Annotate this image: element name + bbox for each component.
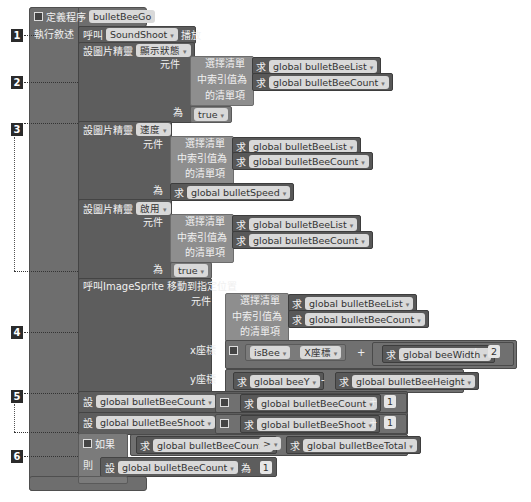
property-dropdown[interactable]: 速度▾ [136,123,171,136]
var-dropdown[interactable]: global bulletBeeTotal▾ [303,439,417,452]
marker-1: 1 [11,29,23,42]
chevron-down-icon: ▾ [468,379,472,387]
var-dropdown[interactable]: global beeY▾ [250,375,320,388]
var-dropdown[interactable]: global bulletSpeed▾ [187,186,290,199]
mutator-icon[interactable] [220,419,229,428]
get-count-var[interactable]: 求 global bulletBeeCount▾ [136,436,277,454]
chevron-down-icon: ▾ [361,238,365,246]
chevron-down-icon: ▾ [361,159,365,167]
get-label: 求 [174,185,184,200]
var-dropdown[interactable]: global bulletBeeCount▾ [118,461,238,474]
get-label: 求 [386,347,396,362]
property-dropdown[interactable]: 啟用▾ [136,202,171,215]
item-label: 的清單項 [185,246,225,260]
property-dropdown[interactable]: 顯示狀態▾ [136,44,191,57]
x-label: x座標 [190,344,216,358]
get-speed-var[interactable]: 求 global bulletSpeed▾ [170,183,294,201]
get-total-var[interactable]: 求 global bulletBeeTotal▾ [286,436,421,454]
var-dropdown[interactable]: global bulletBeeCount▾ [269,76,389,89]
chevron-down-icon: ▾ [406,301,410,309]
select-list-label: 選擇清單 [205,57,245,71]
number-field[interactable]: 1 [384,416,396,429]
method-label: 播放 [181,27,201,42]
get-index-var[interactable]: 求 global bulletBeeCount▾ [252,73,393,91]
mutator-icon[interactable] [229,346,238,355]
set-label: 設圖片精靈 [83,201,133,216]
sprite-getter-block[interactable]: isBee▾ X座標▾ [245,344,346,361]
var-dropdown[interactable]: global bulletBeeCount▾ [249,155,369,168]
get-index-var[interactable]: 求 global bulletBeeCount▾ [288,310,429,328]
var-dropdown[interactable]: global bulletBeeCount▾ [249,234,369,247]
chevron-down-icon: ▾ [170,32,174,40]
number-field[interactable]: 2 [488,345,500,358]
var-dropdown[interactable]: global bulletBeeList▾ [269,60,377,73]
get-label: 求 [256,59,266,74]
boolean-value[interactable]: true [198,109,218,120]
set-count-reset[interactable]: 設 global bulletBeeCount▾ 為 1 [100,457,277,477]
marker-4: 4 [11,326,23,339]
chevron-down-icon: ▾ [350,144,354,152]
chevron-down-icon: ▾ [283,190,287,198]
component-label: 元件 [160,58,180,72]
get-shoot-var[interactable]: 求 global bulletBeeShoot▾ [240,415,380,433]
chevron-down-icon: ▾ [483,352,487,360]
number-field[interactable]: 1 [384,395,396,408]
chevron-down-icon: ▾ [417,317,421,325]
index-label: 中索引值為 [177,152,227,166]
component-dropdown[interactable]: isBee▾ [250,346,290,359]
moveto-call-label: 呼叫ImageSprite 移動到指定位置 [83,280,237,294]
true-block[interactable]: true▾ [170,262,212,279]
get-label: 求 [140,438,150,453]
marker-3-bracket [14,137,15,271]
mutator-icon[interactable] [83,439,92,448]
var-dropdown[interactable]: global bulletBeeList▾ [249,140,357,153]
var-dropdown[interactable]: global bulletBeeHeight▾ [352,375,475,388]
var-dropdown[interactable]: global bulletBeeShoot▾ [257,418,376,431]
item-label: 的清單項 [205,89,245,103]
var-dropdown[interactable]: global bulletBeeCount▾ [96,395,216,408]
get-index-var[interactable]: 求 global bulletBeeCount▾ [232,152,373,170]
true-block[interactable]: true▾ [190,106,232,123]
var-dropdown[interactable]: global beeWidth▾ [399,348,491,361]
get-index-var[interactable]: 求 global bulletBeeCount▾ [232,231,373,249]
chevron-down-icon: ▾ [163,206,167,214]
select-list-label: 選擇清單 [185,215,225,229]
get-label: 求 [339,374,349,389]
procedure-title-row: 定義程序 bulletBeeGo [34,9,155,24]
mutator-icon[interactable] [220,398,229,407]
var-dropdown[interactable]: global bulletBeeShoot▾ [96,416,215,429]
collapse-icon[interactable] [34,12,43,21]
marker-5-bracket [14,404,15,432]
component-label: 元件 [143,138,163,152]
get-label: 求 [290,438,300,453]
plus-operator: + [369,416,377,430]
get-label: 求 [236,217,246,232]
var-dropdown[interactable]: global bulletBeeList▾ [249,218,357,231]
number-field[interactable]: 1 [260,461,272,474]
boolean-value[interactable]: true [178,265,198,276]
component-dropdown[interactable]: SoundShoot▾ [106,28,178,41]
operator-dropdown[interactable]: >▾ [259,437,281,450]
var-dropdown[interactable]: global bulletBeeCount▾ [305,313,425,326]
plus-operator: + [357,346,365,360]
call-label: 呼叫 [83,27,103,42]
divide-operator: / [473,346,476,360]
property-dropdown[interactable]: X座標▾ [300,346,341,359]
if-label: 如果 [95,436,115,451]
get-count-var[interactable]: 求 global bulletBeeCount▾ [240,394,381,412]
procedure-name-field[interactable]: bulletBeeGo [89,10,155,23]
get-beey-var[interactable]: 求 global beeY▾ [233,372,324,390]
var-dropdown[interactable]: global bulletBeeList▾ [305,297,413,310]
index-label: 中索引值為 [177,231,227,245]
chevron-down-icon: ▾ [409,443,413,451]
var-dropdown[interactable]: global bulletBeeCount▾ [153,439,273,452]
chevron-down-icon: ▾ [350,222,354,230]
y-label: y座標 [190,373,216,387]
marker-1-line [24,35,36,36]
get-width-var[interactable]: 求 global beeWidth▾ [382,345,495,363]
marker-6-line [24,456,78,457]
var-dropdown[interactable]: global bulletBeeCount▾ [257,397,377,410]
if-block-footer [78,476,128,484]
get-height-var[interactable]: 求 global bulletBeeHeight▾ [335,372,479,390]
marker-4-line [24,332,78,333]
